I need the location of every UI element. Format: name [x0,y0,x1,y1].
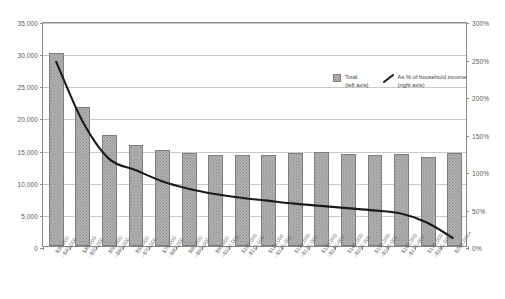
legend-total-line2: (left axis) [345,81,369,89]
left-axis-tick-label: 30,000 [18,52,38,59]
right-axis-tickmark [466,23,469,24]
right-axis-tickmark [466,211,469,212]
right-axis-tickmark [466,136,469,137]
right-axis-tick-label: 150% [472,132,489,139]
right-axis-tick-label: 200% [472,95,489,102]
right-axis-tickmark [466,98,469,99]
legend-label-percent: As % of household income (right axis) [398,73,467,90]
plot-area: 05,00010,00015,00020,00025,00030,00035,0… [42,22,467,247]
left-axis-tick-label: 20,000 [18,116,38,123]
left-axis-tick-label: 15,000 [18,148,38,155]
percent-line-series [43,23,466,247]
left-axis-tick-label: 25,000 [18,84,38,91]
right-axis-tickmark [466,61,469,62]
x-axis-tickmark [468,246,469,250]
right-axis-tick-label: 300% [472,20,489,27]
legend-label-total: Total (left axis) [345,73,369,90]
right-axis-tick-label: 0% [472,245,482,252]
left-axis-tick-label: 5,000 [21,212,38,219]
legend-percent-line1: As % of household income [398,73,467,81]
left-axis-tick-label: 0 [34,245,38,252]
right-axis-tick-label: 50% [472,207,485,214]
legend-item-percent: As % of household income (right axis) [383,73,467,90]
line-swatch-icon [383,74,394,83]
left-axis-tick-label: 10,000 [18,180,38,187]
legend-total-line1: Total [345,73,369,81]
x-axis-labels: $30,000–$40,000$40,000–$50,000$50,000–$6… [42,251,467,299]
chart-legend: Total (left axis) As % of household inco… [333,73,466,90]
legend-item-total: Total (left axis) [333,73,369,90]
left-axis-tick-label: 35,000 [18,20,38,27]
legend-percent-line2: (right axis) [398,81,467,89]
right-axis-tick-label: 100% [472,170,489,177]
right-axis-tickmark [466,173,469,174]
chart-root: 05,00010,00015,00020,00025,00030,00035,0… [0,0,505,299]
right-axis-tick-label: 250% [472,57,489,64]
bar-swatch-icon [333,74,341,82]
